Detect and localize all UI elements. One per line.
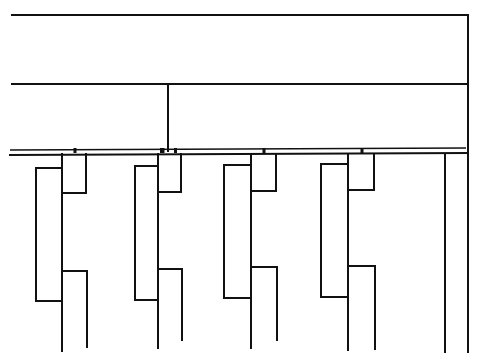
hanger-unit-2 xyxy=(135,148,182,348)
frame xyxy=(12,15,468,352)
hanger-units xyxy=(36,148,375,351)
lower-arm xyxy=(251,267,277,340)
hanger-unit-1 xyxy=(36,148,87,351)
lower-arm xyxy=(62,271,87,347)
rail-upper xyxy=(10,148,466,150)
diagram-svg xyxy=(0,0,479,357)
rail-tab xyxy=(263,148,266,153)
left-bracket xyxy=(224,165,251,298)
lower-arm xyxy=(348,266,375,349)
hanger-unit-3 xyxy=(224,148,277,348)
left-bracket xyxy=(135,166,158,300)
upper-box xyxy=(62,154,86,193)
rail-tab xyxy=(74,148,77,153)
upper-box xyxy=(348,154,374,190)
rail-tab xyxy=(361,148,364,153)
patent-line-drawing xyxy=(0,0,479,357)
rail-tab xyxy=(174,148,177,153)
left-bracket xyxy=(321,164,348,297)
left-bracket xyxy=(36,168,62,301)
lower-arm xyxy=(158,269,182,340)
rail-tab xyxy=(160,148,163,153)
hanger-unit-4 xyxy=(321,148,375,350)
rail xyxy=(10,148,468,155)
upper-box xyxy=(251,154,276,191)
upper-box xyxy=(158,154,181,192)
rail-lower xyxy=(10,153,468,155)
